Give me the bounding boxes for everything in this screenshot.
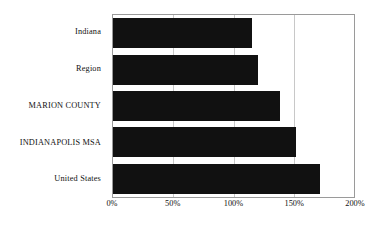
x-tick-label: 200%: [345, 200, 365, 208]
category-label-indiana: Indiana: [0, 14, 106, 51]
category-label-region: Region: [0, 51, 106, 88]
category-label-united-states: United States: [0, 161, 106, 198]
value-axis: 0%50%100%150%200%: [112, 200, 355, 216]
bar-chart: Indiana Region MARION COUNTY INDIANAPOLI…: [0, 0, 382, 232]
bar-series: [113, 15, 354, 197]
bar-region: [113, 55, 258, 85]
x-tick-label: 0%: [106, 200, 117, 208]
plot-area: [112, 14, 355, 198]
x-tick-label: 50%: [165, 200, 180, 208]
bar-band: [113, 161, 354, 197]
x-tick-label: 100%: [224, 200, 244, 208]
bar-band: [113, 15, 354, 51]
bar-marion-county: [113, 91, 280, 121]
bar-indianapolis-msa: [113, 127, 296, 157]
bar-band: [113, 88, 354, 124]
bar-indiana: [113, 18, 252, 48]
bar-band: [113, 124, 354, 160]
category-label-marion-county: MARION COUNTY: [0, 88, 106, 125]
category-label-indianapolis-msa: INDIANAPOLIS MSA: [0, 124, 106, 161]
bar-band: [113, 51, 354, 87]
category-axis: Indiana Region MARION COUNTY INDIANAPOLI…: [0, 14, 106, 198]
bar-united-states: [113, 164, 320, 194]
x-tick-label: 150%: [284, 200, 304, 208]
